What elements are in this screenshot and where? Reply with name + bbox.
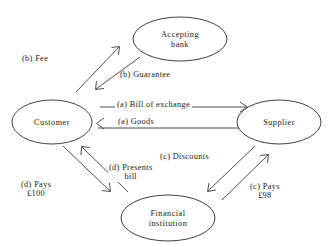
edge-pays-100 [63, 146, 111, 192]
flow-diagram-canvas: Accepting bank Customer Supplier Financi… [0, 0, 335, 247]
edge-label-pays-98-line1: (c) Pays [250, 182, 280, 191]
accepting-bank-ellipse[interactable] [133, 17, 227, 61]
edge-label-pays-100-line2: £100 [21, 189, 51, 198]
edge-label-presents-bill-line2: bill [109, 172, 153, 181]
edge-label-discounts-line1: (c) Discounts [160, 152, 209, 161]
edge-discounts [208, 146, 256, 192]
edge-goods-arrowhead [97, 118, 105, 129]
edge-label-goods: (a) Goods [116, 117, 156, 126]
edge-label-guarantee: (b) Guarantee [120, 70, 170, 79]
financial-institution-label-line2: institution [149, 219, 188, 228]
accepting-bank-label-line2: bank [171, 40, 189, 49]
edge-fee [76, 47, 120, 93]
financial-institution-ellipse[interactable] [121, 195, 215, 241]
diagram-vector-layer: Accepting bank Customer Supplier Financi… [0, 0, 335, 247]
accepting-bank-label-line1: Accepting [161, 30, 199, 39]
edge-label-pays-100: (d) Pays £100 [21, 180, 51, 199]
edge-label-presents-bill-line1: (d) Presents [109, 163, 153, 172]
customer-label-line1: Customer [34, 118, 70, 127]
edge-fee-line [76, 47, 119, 92]
node-supplier[interactable]: Supplier [237, 100, 321, 144]
edge-label-fee-line1: (b) Fee [22, 54, 48, 63]
edge-label-bill-of-exchange: (a) Bill of exchange [115, 100, 192, 109]
edge-label-pays-98: (c) Pays £98 [250, 182, 280, 201]
edge-label-discounts: (c) Discounts [159, 152, 210, 161]
edge-label-presents-bill: (d) Presents bill [108, 163, 154, 182]
edge-label-goods-line1: (a) Goods [118, 117, 154, 126]
edge-label-bill-of-exchange-line1: (a) Bill of exchange [117, 100, 190, 109]
edge-label-guarantee-line1: (b) Guarantee [120, 70, 170, 79]
edge-label-pays-98-line2: £98 [250, 191, 280, 200]
node-customer[interactable]: Customer [12, 100, 92, 144]
supplier-label-line1: Supplier [263, 118, 295, 127]
edge-pays-100-line [63, 146, 110, 191]
edge-label-fee: (b) Fee [22, 54, 48, 63]
edge-label-pays-100-line1: (d) Pays [21, 180, 51, 189]
node-financial-institution[interactable]: Financial institution [121, 195, 215, 241]
financial-institution-label-line1: Financial [151, 209, 186, 218]
node-accepting-bank[interactable]: Accepting bank [133, 17, 227, 61]
edge-discounts-line [208, 146, 255, 191]
